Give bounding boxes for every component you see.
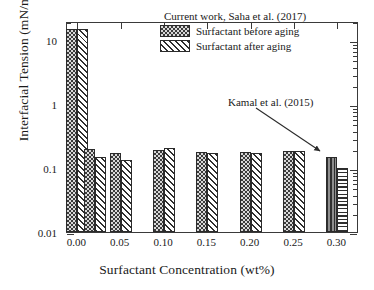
legend-title: Current work, Saha et al. (2017) bbox=[164, 10, 360, 22]
bar bbox=[84, 149, 95, 232]
y-tick-minor bbox=[353, 112, 357, 113]
y-tick-major bbox=[350, 234, 357, 235]
y-tick-major bbox=[350, 106, 357, 107]
y-tick-minor bbox=[353, 125, 357, 126]
y-tick-minor bbox=[353, 120, 357, 121]
bar bbox=[66, 29, 77, 232]
x-axis-title: Surfactant Concentration (wt%) bbox=[0, 262, 374, 278]
bar bbox=[110, 153, 121, 232]
bar bbox=[95, 157, 106, 232]
y-tick-minor bbox=[353, 140, 357, 141]
legend-swatch-before-aging bbox=[160, 25, 190, 37]
y-tick-minor bbox=[353, 215, 357, 216]
x-tick-label: 0.05 bbox=[97, 236, 143, 248]
y-tick-minor bbox=[353, 204, 357, 205]
y-tick-minor bbox=[353, 52, 357, 53]
x-tick-top bbox=[121, 23, 122, 29]
y-tick-minor bbox=[353, 196, 357, 197]
bar bbox=[164, 148, 175, 232]
x-tick-label: 0.00 bbox=[53, 236, 99, 248]
annotation-kamal-label: Kamal et al. (2015) bbox=[228, 96, 314, 108]
bar bbox=[196, 152, 207, 232]
y-tick-minor bbox=[353, 109, 357, 110]
x-tick-label: 0.30 bbox=[313, 236, 359, 248]
y-tick-minor bbox=[353, 76, 357, 77]
bar bbox=[337, 168, 348, 232]
bar bbox=[283, 151, 294, 232]
y-tick-minor bbox=[353, 176, 357, 177]
legend-item-before-aging: Surfactant before aging bbox=[160, 25, 360, 37]
y-tick-label: 0.01 bbox=[0, 227, 57, 239]
x-tick-label: 0.20 bbox=[227, 236, 273, 248]
y-axis-title: Interfacial Tension (mN/m) bbox=[16, 0, 32, 176]
bar bbox=[294, 151, 305, 232]
legend: Current work, Saha et al. (2017) Surfact… bbox=[160, 10, 360, 52]
bar bbox=[153, 150, 164, 232]
x-tick-label: 0.25 bbox=[270, 236, 316, 248]
y-tick-major bbox=[67, 234, 74, 235]
y-tick-minor bbox=[353, 116, 357, 117]
legend-swatch-after-aging bbox=[160, 40, 190, 52]
y-tick-minor bbox=[353, 180, 357, 181]
y-tick-label: 10 bbox=[0, 35, 57, 47]
y-tick-minor bbox=[353, 87, 357, 88]
bar bbox=[121, 160, 132, 232]
legend-label-after-aging: Surfactant after aging bbox=[196, 40, 291, 52]
legend-item-after-aging: Surfactant after aging bbox=[160, 40, 360, 52]
plot-area bbox=[66, 22, 358, 233]
y-tick-label: 1 bbox=[0, 99, 57, 111]
bar bbox=[207, 153, 218, 232]
y-tick-minor bbox=[353, 132, 357, 133]
y-tick-major bbox=[350, 170, 357, 171]
bar bbox=[240, 152, 251, 232]
y-tick-minor bbox=[353, 151, 357, 152]
bar bbox=[251, 153, 262, 232]
y-tick-minor bbox=[353, 68, 357, 69]
x-tick-label: 0.10 bbox=[140, 236, 186, 248]
y-tick-minor bbox=[353, 184, 357, 185]
figure-interfacial-tension-bar-chart: Interfacial Tension (mN/m) Surfactant Co… bbox=[0, 0, 374, 290]
y-tick-minor bbox=[353, 61, 357, 62]
y-tick-minor bbox=[353, 189, 357, 190]
legend-label-before-aging: Surfactant before aging bbox=[196, 25, 299, 37]
y-tick-minor bbox=[353, 173, 357, 174]
y-tick-minor bbox=[67, 23, 71, 24]
y-tick-minor bbox=[353, 56, 357, 57]
y-tick-label: 0.1 bbox=[0, 163, 57, 175]
x-tick-label: 0.15 bbox=[183, 236, 229, 248]
bar bbox=[326, 157, 337, 232]
